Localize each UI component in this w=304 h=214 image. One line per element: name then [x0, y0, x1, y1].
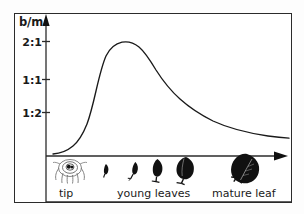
stage-label-tip: tip — [59, 187, 73, 200]
y-axis-label-denominator: m — [31, 15, 43, 29]
stage-label-young-leaves: young leaves — [117, 187, 190, 200]
young-leaf-small-icon — [128, 162, 138, 181]
y-axis-arrow-icon — [42, 14, 49, 26]
leaf-primordium-icon — [104, 164, 109, 178]
data-curve — [53, 42, 289, 154]
mature-leaf-icon — [231, 154, 259, 184]
y-tick-label-2-1: 2:1 — [16, 36, 42, 49]
young-leaf-large-icon — [176, 157, 193, 185]
y-tick-label-1-1: 1:1 — [16, 74, 42, 87]
plot-canvas — [0, 0, 304, 214]
young-leaf-medium-icon — [152, 159, 163, 182]
stage-label-mature-leaf: mature leaf — [212, 187, 276, 200]
figure-root: b/m 2:1 1:1 1:2 tip young leaves mature … — [0, 0, 304, 214]
y-axis-label-numerator: b — [19, 15, 27, 29]
x-axis-arrow-icon — [274, 152, 288, 161]
y-axis-label: b/m — [19, 15, 43, 29]
y-tick-label-1-2: 1:2 — [16, 107, 42, 120]
shoot-apex-icon — [53, 160, 87, 184]
